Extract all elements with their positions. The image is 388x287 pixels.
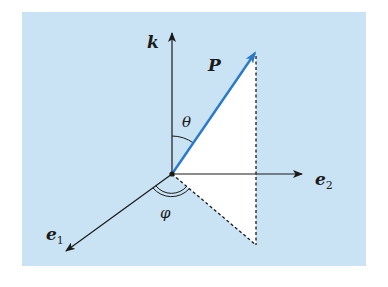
spherical-coordinates-diagram: k P θ φ e2 e1 (0, 0, 388, 287)
e1-label-base: e (46, 224, 57, 244)
diagram-background (22, 12, 366, 266)
origin-point (169, 171, 174, 176)
k-axis-label: k (147, 32, 159, 52)
e2-label-base: e (315, 169, 326, 189)
theta-label: θ (182, 113, 191, 131)
vector-p-label: P (207, 55, 222, 75)
e2-label-subscript: 2 (326, 179, 333, 192)
e1-label-subscript: 1 (57, 234, 64, 247)
phi-label: φ (160, 204, 171, 222)
